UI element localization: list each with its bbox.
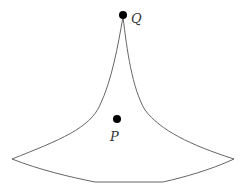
diagram-canvas: Q P — [0, 0, 250, 189]
point-q-dot — [119, 11, 127, 19]
point-q-label: Q — [131, 11, 142, 26]
cusp-region-outline — [12, 17, 234, 182]
point-p-label: P — [109, 129, 119, 144]
point-p-dot — [113, 115, 121, 123]
